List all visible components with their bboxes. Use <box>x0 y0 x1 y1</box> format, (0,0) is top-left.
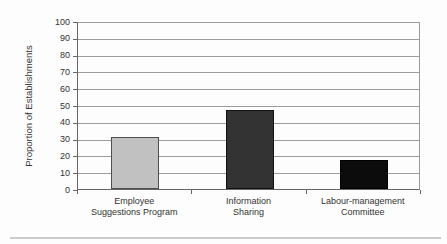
y-tick-label: 40 <box>39 117 70 127</box>
bar <box>340 160 388 189</box>
gridline <box>78 106 419 107</box>
x-tick-mark <box>420 190 421 194</box>
category-label-line: Labour-management <box>293 196 433 207</box>
category-label: Labour-managementCommittee <box>293 196 433 218</box>
y-tick-label: 10 <box>39 168 70 178</box>
x-tick-mark <box>77 190 78 194</box>
category-label: EmployeeSuggestions Program <box>64 196 204 218</box>
y-tick-mark <box>73 190 77 191</box>
plot-area <box>77 22 420 190</box>
y-tick-label: 80 <box>39 50 70 60</box>
y-tick-label: 90 <box>39 33 70 43</box>
bar <box>111 137 159 189</box>
gridline <box>78 39 419 40</box>
gridline <box>78 56 419 57</box>
category-label-line: Committee <box>293 207 433 218</box>
category-label-line: Employee <box>64 196 204 207</box>
x-tick-mark <box>191 190 192 194</box>
gridline <box>78 72 419 73</box>
y-tick-label: 20 <box>39 151 70 161</box>
y-tick-label: 100 <box>39 17 70 27</box>
y-tick-label: 70 <box>39 67 70 77</box>
category-label: InformationSharing <box>179 196 319 218</box>
category-label-line: Information <box>179 196 319 207</box>
y-tick-label: 50 <box>39 101 70 111</box>
bar <box>226 110 274 189</box>
y-axis-title: Proportion of Establishments <box>23 21 34 191</box>
category-label-line: Suggestions Program <box>64 207 204 218</box>
y-tick-label: 0 <box>39 185 70 195</box>
bottom-divider-line <box>10 237 441 239</box>
category-label-line: Sharing <box>179 207 319 218</box>
gridline <box>78 89 419 90</box>
x-tick-mark <box>306 190 307 194</box>
chart-figure: Proportion of Establishments 01020304050… <box>0 0 447 244</box>
y-tick-label: 60 <box>39 84 70 94</box>
gridline <box>78 22 419 23</box>
y-tick-label: 30 <box>39 134 70 144</box>
